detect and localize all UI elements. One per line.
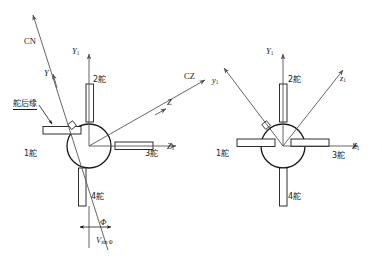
right-axis-Z1-label: Z1 <box>352 142 359 151</box>
left-fin-3-label: 3舵 <box>145 150 158 158</box>
left-fin-2-label: 2舵 <box>93 76 106 84</box>
right-fin-1-label: 1舵 <box>216 150 229 158</box>
left-trailing-edge-label: 舵后缘 <box>13 100 37 110</box>
left-fin-1-shape <box>43 127 81 135</box>
left-fin-4-shape <box>79 168 87 206</box>
right-axis-Y1-label: Y1 <box>266 47 273 56</box>
left-axis-Y1-label: Y1 <box>72 47 79 56</box>
right-fin-3-shape <box>291 139 329 147</box>
left-velocity-label-sub: sin Φ <box>101 239 112 245</box>
left-fin-4-label: 4舵 <box>91 193 104 201</box>
left-velocity-label: Vsin Φ <box>96 236 113 245</box>
left-axis-Z-label: Z <box>167 98 172 107</box>
left-axis-Z-midarrow <box>155 109 166 115</box>
left-axis-Z1-label-sub: 1 <box>172 145 175 151</box>
right-axis-z1-label-sub: 1 <box>343 77 346 83</box>
left-axis-Y1-label-sub: 1 <box>77 50 80 56</box>
left-roll-angle-label: Φ <box>100 218 106 227</box>
right-fin-4-label: 4舵 <box>288 193 301 201</box>
right-axis-y1-label-sub: 1 <box>216 79 219 85</box>
left-axis-Z-CZ-line <box>89 80 205 146</box>
left-force-CN-label: CN <box>24 37 36 46</box>
left-trailing-edge-leader <box>39 105 52 124</box>
right-axis-Y1-label-sub: 1 <box>271 50 274 56</box>
left-diagram-group <box>33 15 205 250</box>
left-fin-2-shape <box>86 84 94 122</box>
figure-root: CN Y Y1 CZ Z Z1 舵后缘 1舵 2舵 3舵 4舵 Φ Vsin Φ… <box>0 0 382 267</box>
right-axis-y1-line <box>224 68 283 146</box>
left-axis-Z1-label: Z1 <box>167 142 174 151</box>
right-fin-4-shape <box>280 168 288 206</box>
left-axis-Y-label: Y <box>44 69 49 78</box>
right-axis-y1-label: y1 <box>212 76 218 85</box>
diagram-canvas <box>0 0 382 267</box>
right-axis-z1-label: z1 <box>340 74 346 83</box>
right-fin-1-shape <box>237 139 275 147</box>
left-fin-1-label: 1舵 <box>24 150 37 158</box>
right-fin-2-label: 2舵 <box>288 76 301 84</box>
left-force-CZ-label: CZ <box>184 72 195 81</box>
right-fin-3-label: 3舵 <box>332 152 345 160</box>
right-axis-Z1-label-sub: 1 <box>357 145 360 151</box>
